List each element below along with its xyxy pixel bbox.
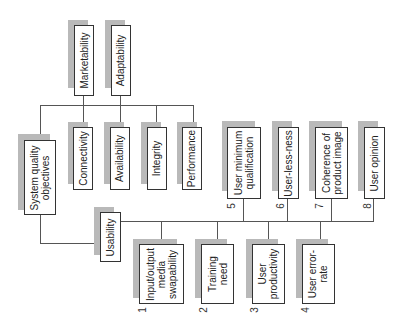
node-user-opinion: User opinion: [364, 127, 385, 199]
node-user-less-ness: User-less-ness: [278, 127, 299, 199]
node-availability: Availability: [110, 127, 130, 190]
node-label: Integrity: [152, 141, 163, 177]
item-number: 6: [276, 203, 286, 209]
node-input-output-media-swapability: Input/output media swapability: [139, 244, 184, 304]
node-label: Input/output media swapability: [145, 248, 178, 301]
node-label: User opinion: [369, 135, 380, 191]
root-down-connector: [40, 214, 41, 244]
node-label: User minimum qualification: [233, 131, 255, 195]
node-label: Performance: [187, 130, 198, 187]
node-training-need: Training need: [201, 244, 234, 304]
item-number: 2: [199, 307, 209, 313]
node-label: Connectivity: [78, 131, 89, 185]
node-integrity: Integrity: [147, 127, 167, 190]
item-number: 1: [138, 307, 148, 313]
node-label: Training need: [207, 256, 229, 292]
node-user-minimum-qualification: User minimum qualification: [227, 127, 261, 199]
node-usability: Usability: [100, 212, 121, 262]
root-to-usability-line: [40, 243, 101, 244]
node-label: User error- rate: [308, 250, 330, 298]
node-label: Usability: [105, 218, 116, 256]
item-number: 4: [301, 307, 311, 313]
item-number: 3: [250, 307, 260, 313]
top-branch-line: [40, 105, 194, 106]
item-number: 8: [363, 203, 373, 209]
conn-5: [243, 197, 244, 222]
node-label: System quality objectives: [29, 145, 51, 210]
node-label: User productivity: [258, 249, 280, 300]
node-user-error-rate: User error- rate: [302, 244, 335, 304]
item-number: 5: [227, 203, 237, 209]
node-label: Coherence of product image: [321, 131, 343, 194]
node-label: Marketability: [79, 32, 90, 88]
node-label: Adaptability: [116, 35, 127, 87]
node-adaptability: Adaptability: [111, 25, 131, 96]
item-number: 7: [315, 203, 325, 209]
node-user-productivity: User productivity: [252, 244, 285, 304]
conn-6: [287, 197, 288, 222]
usability-branch-line: [120, 221, 374, 222]
conn-7: [331, 197, 332, 222]
node-performance: Performance: [182, 127, 202, 190]
node-label: Availability: [115, 135, 126, 182]
node-marketability: Marketability: [74, 25, 94, 96]
node-system-quality-objectives: System quality objectives: [24, 140, 56, 215]
node-label: User-less-ness: [283, 130, 294, 197]
node-connectivity: Connectivity: [73, 127, 93, 190]
node-coherence-of-product-image: Coherence of product image: [315, 127, 348, 199]
conn-8: [373, 197, 374, 222]
